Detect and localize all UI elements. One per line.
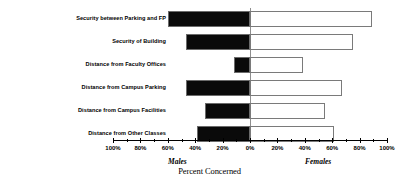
x-axis: 100%80%60%40%20%0%20%40%60%80%100% bbox=[113, 140, 387, 142]
x-axis-minor-tick bbox=[236, 139, 237, 142]
bar-females-4 bbox=[250, 103, 325, 119]
x-axis-minor-tick bbox=[264, 139, 265, 142]
legend-label-males: Males bbox=[168, 157, 187, 166]
x-axis-tick-label: 100% bbox=[367, 145, 407, 151]
bar-females-3 bbox=[250, 80, 342, 96]
bar-males-2 bbox=[234, 57, 250, 73]
x-axis-tick bbox=[360, 138, 361, 143]
x-axis-tick bbox=[223, 138, 224, 143]
bar-males-1 bbox=[186, 34, 250, 50]
x-axis-minor-tick bbox=[346, 139, 347, 142]
bar-females-1 bbox=[250, 34, 353, 50]
x-axis-minor-tick bbox=[127, 139, 128, 142]
x-axis-minor-tick bbox=[291, 139, 292, 142]
x-axis-minor-tick bbox=[209, 139, 210, 142]
x-axis-tick bbox=[277, 138, 278, 143]
x-axis-minor-tick bbox=[154, 139, 155, 142]
bar-females-2 bbox=[250, 57, 303, 73]
x-axis-title: Percent Concerned bbox=[0, 166, 419, 176]
bar-row bbox=[113, 100, 387, 122]
x-axis-tick bbox=[195, 138, 196, 143]
bar-chart: Security between Parking and FP Security… bbox=[0, 0, 419, 190]
x-axis-minor-tick bbox=[319, 139, 320, 142]
x-axis-tick bbox=[168, 138, 169, 143]
bar-females-0 bbox=[250, 11, 372, 27]
plot-area bbox=[113, 8, 387, 140]
x-axis-tick bbox=[113, 138, 114, 143]
x-axis-tick bbox=[140, 138, 141, 143]
bar-row bbox=[113, 77, 387, 99]
legend-label-females: Females bbox=[305, 157, 331, 166]
bar-row bbox=[113, 31, 387, 53]
x-axis-minor-tick bbox=[182, 139, 183, 142]
x-axis-tick bbox=[332, 138, 333, 143]
bar-males-3 bbox=[186, 80, 250, 96]
x-axis-tick bbox=[305, 138, 306, 143]
x-axis-minor-tick bbox=[373, 139, 374, 142]
bar-row bbox=[113, 54, 387, 76]
x-axis-tick bbox=[250, 138, 251, 143]
x-axis-tick bbox=[387, 138, 388, 143]
bar-row bbox=[113, 8, 387, 30]
bar-males-4 bbox=[205, 103, 250, 119]
bar-males-0 bbox=[168, 11, 250, 27]
